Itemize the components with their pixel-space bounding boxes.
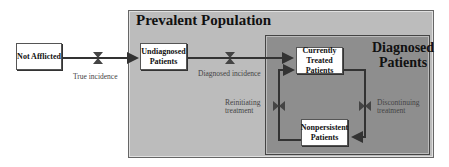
flow-label-reinitiating-treatment: Reinitiating treatment: [225, 99, 270, 115]
flow-connectors: [0, 0, 449, 167]
stock-undiagnosed-patients: Undiagnosed Patients: [140, 43, 187, 70]
stock-currently-treated-patients: Currently Treated Patients: [296, 47, 343, 74]
stock-label: Nonpersistent Patients: [301, 123, 349, 143]
flow-label-discontinuing-treatment: Discontinuing treatment: [377, 99, 422, 115]
stock-label: Currently Treated Patients: [297, 46, 342, 76]
stock-label: Undiagnosed Patients: [141, 47, 186, 67]
stock-nonpersistent-patients: Nonpersistent Patients: [301, 119, 348, 146]
stock-not-afflicted: Not Afflicted: [16, 43, 62, 70]
flow-label-true-incidence: True incidence: [73, 73, 118, 81]
stock-label: Not Afflicted: [17, 52, 61, 62]
flow-label-diagnosed-incidence: Diagnosed incidence: [198, 70, 261, 78]
